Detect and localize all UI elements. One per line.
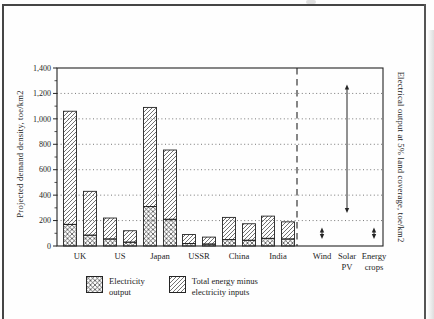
x-label-solar-pv-line2: PV <box>342 262 354 272</box>
arrow-energy-crops-head-down <box>372 234 376 239</box>
arrow-solar-pv-head-up <box>345 85 349 90</box>
x-label-solar-pv-line1: Solar <box>338 251 356 261</box>
scanned-figure-page: 02004006008001,0001,2001,400UKUSJapanUSS… <box>0 0 434 319</box>
bar-ussr-2-total-energy <box>203 237 216 244</box>
bar-uk-2-electricity-output <box>84 235 97 246</box>
bar-us-1-electricity-output <box>104 239 117 246</box>
bar-china-2-electricity-output <box>243 240 256 246</box>
y-tick-label-0: 0 <box>47 242 51 251</box>
bar-china-2-total-energy <box>243 224 256 241</box>
bar-us-2-total-energy <box>124 231 137 242</box>
legend: Electricity output Total energy minus el… <box>86 276 258 297</box>
bar-ussr-1-total-energy <box>183 235 196 244</box>
arrow-energy-crops-head-up <box>372 228 376 233</box>
legend-label: Electricity output <box>109 276 145 297</box>
bar-japan-1-total-energy <box>144 107 157 206</box>
y-tick-label-1000: 1,000 <box>33 115 51 124</box>
legend-label-line2: electricity inputs <box>192 287 250 297</box>
bar-india-2-electricity-output <box>282 239 295 246</box>
x-label-india: India <box>269 251 287 261</box>
y-axis-label: Projected demand density, toe/km2 <box>15 59 25 249</box>
x-label-uk: UK <box>74 251 87 261</box>
bar-japan-2-total-energy <box>164 150 177 219</box>
bar-japan-1-electricity-output <box>144 207 157 246</box>
cross-hatch-swatch <box>86 276 103 293</box>
arrow-solar-pv-head-down <box>345 208 349 213</box>
bar-china-1-total-energy <box>223 217 236 239</box>
diagonal-hatch-swatch <box>169 276 186 293</box>
bar-japan-2-electricity-output <box>164 219 177 246</box>
y-tick-label-200: 200 <box>39 216 51 225</box>
x-label-us: US <box>115 251 126 261</box>
bar-china-1-electricity-output <box>223 240 236 246</box>
arrow-wind-head-down <box>320 234 324 239</box>
x-label-japan: Japan <box>150 251 170 261</box>
legend-label: Total energy minus electricity inputs <box>192 276 258 297</box>
legend-label-line1: Electricity <box>109 276 145 286</box>
x-label-china: China <box>229 251 250 261</box>
y-tick-label-800: 800 <box>39 140 51 149</box>
bar-india-1-total-energy <box>262 216 275 238</box>
bar-uk-1-electricity-output <box>64 224 77 246</box>
x-label-energy-crops-line2: crops <box>365 262 384 272</box>
x-label-energy-crops-line1: Energy <box>362 251 387 261</box>
y-tick-label-1400: 1,400 <box>33 64 51 73</box>
legend-label-line1: Total energy minus <box>192 276 258 286</box>
y-tick-label-400: 400 <box>39 191 51 200</box>
legend-item-electricity-output: Electricity output <box>86 276 145 297</box>
bar-india-1-electricity-output <box>262 238 275 246</box>
y-tick-label-600: 600 <box>39 165 51 174</box>
x-label-ussr: USSR <box>188 251 210 261</box>
x-label-wind-line1: Wind <box>313 251 332 261</box>
bar-uk-2-total-energy <box>84 191 97 235</box>
bar-uk-1-total-energy <box>64 111 77 224</box>
legend-label-line2: output <box>109 287 131 297</box>
right-axis-label: Electrical output at 5% land coverage, t… <box>396 52 406 262</box>
y-tick-label-1200: 1,200 <box>33 89 51 98</box>
arrow-wind-head-up <box>320 228 324 233</box>
chart-svg: 02004006008001,0001,2001,400UKUSJapanUSS… <box>0 0 434 319</box>
bar-us-2-electricity-output <box>124 242 137 246</box>
bar-india-2-total-energy <box>282 222 295 239</box>
bar-us-1-total-energy <box>104 218 117 239</box>
legend-item-total-energy: Total energy minus electricity inputs <box>169 276 258 297</box>
